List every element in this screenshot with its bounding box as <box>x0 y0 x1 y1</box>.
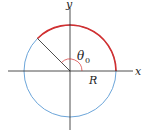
y-axis-label: y <box>65 0 73 11</box>
radius-label: R <box>88 74 97 87</box>
x-axis-label: x <box>135 65 142 78</box>
radius-line <box>37 38 70 71</box>
angle-subscript: 0 <box>85 56 90 65</box>
highlighted-arc <box>37 25 116 71</box>
circle-diagram: y x θ 0 R <box>0 0 150 139</box>
angle-label: θ <box>77 49 85 63</box>
